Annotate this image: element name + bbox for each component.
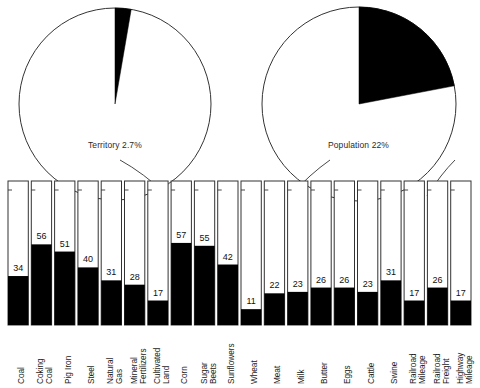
pie-charts-group: [19, 7, 456, 201]
pie-wedge-territory: [115, 8, 131, 104]
bar-category-label-line: Swine: [391, 362, 400, 384]
bar-category-label-line: Mileage: [465, 353, 474, 384]
bar-category-label-line: Mineral: [131, 349, 140, 384]
bar-category-label-line: Fertilizers: [139, 349, 148, 384]
bar-category-label-line: Milk: [298, 369, 307, 384]
chart-vector-layer: [0, 0, 480, 388]
bar-value-label: 26: [311, 275, 331, 285]
bar-value-label: 57: [171, 230, 191, 240]
bar-category-label: Milk: [298, 369, 307, 384]
bar-value-label: 28: [125, 272, 145, 282]
bar-fill: [427, 288, 447, 325]
bar-value-label: 26: [427, 275, 447, 285]
bar-value-label: 31: [101, 267, 121, 277]
bar-category-label: Pig Iron: [65, 356, 74, 384]
bar-category-label: Coal: [18, 367, 27, 384]
bar-category-label: RailroadMileage: [410, 354, 427, 385]
bar-fill: [194, 246, 214, 325]
bar-category-label-line: Butter: [321, 362, 330, 384]
bars-group: [8, 181, 471, 325]
bar-fill: [311, 288, 331, 325]
bar-category-label-line: Pig Iron: [65, 356, 74, 384]
bar-category-label-line: Gas: [116, 358, 125, 384]
bar-category-label-line: Beets: [209, 362, 218, 384]
bar-fill: [334, 288, 354, 325]
bar-category-label: Butter: [321, 362, 330, 384]
bar-value-label: 23: [288, 279, 308, 289]
bar-value-label: 17: [148, 288, 168, 298]
pie-wedge-population: [359, 7, 454, 104]
bar-fill: [404, 301, 424, 325]
bar-category-label: RailroadFreight: [434, 354, 451, 385]
bar-fill: [358, 292, 378, 325]
soviet-us-comparison-figure: Territory 2.7%Population 22% 34565140312…: [0, 0, 480, 388]
bar-value-label: 55: [194, 233, 214, 243]
bar-category-label-line: Corn: [181, 366, 190, 384]
bar-category-label-line: Land: [163, 348, 172, 384]
bar-fill: [78, 267, 98, 325]
bar-value-label: 51: [55, 239, 75, 249]
bar-category-label: Eggs: [344, 365, 353, 384]
bar-fill: [148, 301, 168, 325]
bar-category-label: Steel: [88, 365, 97, 384]
bar-fill: [31, 244, 51, 325]
bar-fill: [8, 276, 28, 325]
pie-label-population: Population 22%: [328, 140, 389, 150]
bar-category-label: Meat: [274, 366, 283, 384]
bar-fill: [451, 301, 471, 325]
bar-fill: [125, 285, 145, 325]
pie-label-territory: Territory 2.7%: [88, 140, 142, 150]
bar-category-label: NaturalGas: [107, 358, 124, 384]
bar-value-label: 11: [241, 296, 261, 306]
bar-category-label: Corn: [181, 366, 190, 384]
bar-value-label: 17: [404, 288, 424, 298]
bar-category-label: Swine: [391, 362, 400, 384]
bar-value-label: 34: [8, 263, 28, 273]
bar-value-label: 17: [451, 288, 471, 298]
bar-category-label: SugarBeets: [201, 362, 218, 384]
bar-value-label: 42: [218, 252, 238, 262]
bar-category-label-line: Railroad: [434, 354, 443, 385]
bar-category-label: Sunflowers: [228, 343, 237, 384]
bar-category-label-line: Sugar: [201, 362, 210, 384]
bar-value-label: 26: [334, 275, 354, 285]
bar-value-label: 56: [31, 231, 51, 241]
bar-category-label-line: Coal: [46, 359, 55, 385]
bar-fill: [264, 293, 284, 325]
bar-fill: [381, 280, 401, 325]
bar-category-label-line: Wheat: [251, 360, 260, 384]
bar-category-label: Cattle: [368, 363, 377, 384]
bar-category-label-line: Sunflowers: [228, 343, 237, 384]
bar-category-label: Wheat: [251, 360, 260, 384]
bar-fill: [241, 309, 261, 325]
bar-category-label-line: Cattle: [368, 363, 377, 384]
bar-fill: [101, 280, 121, 325]
bar-category-label: CokingCoal: [37, 359, 54, 385]
bar-fill: [55, 252, 75, 325]
bar-category-label-line: Freight: [442, 354, 451, 385]
bar-category-label: HighwayMileage: [457, 353, 474, 384]
bar-category-label-line: Eggs: [344, 365, 353, 384]
bar-category-label: CultivatedLand: [154, 348, 171, 384]
bar-value-label: 31: [381, 267, 401, 277]
bar-fill: [288, 292, 308, 325]
bar-value-label: 22: [264, 280, 284, 290]
bar-category-label: MineralFertilizers: [131, 349, 148, 384]
bar-category-label-line: Coal: [18, 367, 27, 384]
bar-category-label-line: Steel: [88, 365, 97, 384]
bar-fill: [171, 243, 191, 325]
bar-category-label-line: Mileage: [419, 354, 428, 385]
bar-value-label: 40: [78, 254, 98, 264]
bar-category-label-line: Meat: [274, 366, 283, 384]
bar-fill: [218, 265, 238, 325]
bar-value-label: 23: [358, 279, 378, 289]
